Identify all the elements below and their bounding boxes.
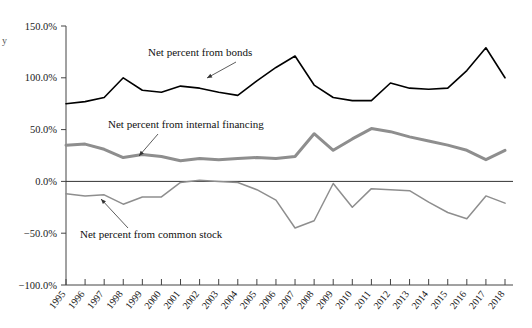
y-tick-label: −50.0% [24,228,57,239]
x-tick-label: 2017 [467,288,488,311]
y-tick-label: 50.0% [30,124,57,135]
x-tick-label: 1999 [123,288,144,311]
x-tick-label: 2011 [352,288,373,310]
bonds-annotation: Net percent from bonds [148,46,252,58]
x-tick-label: 1995 [47,288,68,311]
common-stock-annotation: Net percent from common stock [80,228,223,240]
series-line-internal-financing [66,129,505,161]
x-tick-label: 2005 [237,288,258,311]
x-tick-label: 2006 [257,288,278,311]
line-chart: 150.0%100.0%50.0%0.0%−50.0%−100.0% 19951… [0,0,532,328]
x-tick-label: 2016 [447,288,468,311]
y-tick-label: 0.0% [35,176,57,187]
corner-mark-text: y [2,35,7,46]
x-tick-label: 2007 [276,288,297,311]
x-tick-label: 2009 [314,288,335,311]
x-tick-label: 2002 [180,288,201,311]
x-tick-label: 2004 [218,288,239,311]
x-axis-labels-group: 1995199619971998199920002001200220032004… [47,288,507,311]
x-tick-label: 2015 [428,288,449,311]
x-tick-label: 1996 [66,288,87,311]
y-axis-labels-group: 150.0%100.0%50.0%0.0%−50.0%−100.0% [19,21,58,291]
x-tick-label: 2003 [199,288,220,311]
x-tick-label: 2013 [390,288,411,311]
y-tick-label: 150.0% [25,21,58,32]
x-tick-label: 2001 [161,288,182,311]
series-group [66,48,505,228]
internal-financing-annotation: Net percent from internal financing [108,118,264,130]
series-line-common-stock [66,180,505,228]
x-tick-label: 2000 [142,288,163,311]
annotations-group: Net percent from bondsNet percent from i… [80,46,264,240]
x-tick-label: 2010 [333,288,354,311]
y-tick-label: 100.0% [25,72,58,83]
y-tick-label: −100.0% [19,280,58,291]
x-tick-label: 2014 [409,288,430,311]
x-tick-label: 1997 [85,288,106,311]
chart-container: 150.0%100.0%50.0%0.0%−50.0%−100.0% 19951… [0,0,532,328]
series-line-bonds [66,48,505,104]
x-tick-label: 1998 [104,288,125,311]
x-tick-label: 2008 [295,288,316,311]
x-tick-label: 2012 [371,288,392,311]
x-tick-label: 2018 [486,288,507,311]
